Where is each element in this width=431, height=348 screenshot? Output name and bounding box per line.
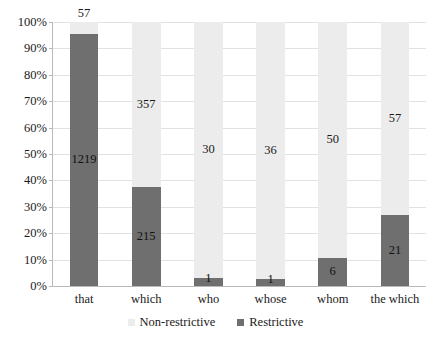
y-axis-label: 0% <box>30 280 47 293</box>
bars-layer: 121957that215357which130who136whose650wh… <box>53 22 426 286</box>
data-label-non-restrictive: 30 <box>194 144 223 157</box>
legend-label: Non-restrictive <box>140 316 216 329</box>
x-axis-label: who <box>198 293 220 306</box>
bar-group[interactable]: 650whom <box>302 22 364 286</box>
data-label-non-restrictive: 36 <box>256 144 285 157</box>
stacked-bar[interactable]: 215357 <box>132 22 161 286</box>
data-label-restrictive: 6 <box>318 266 347 279</box>
y-axis-label: 30% <box>24 201 47 214</box>
stacked-bar[interactable]: 130 <box>194 22 223 286</box>
x-axis-label: whom <box>317 293 348 306</box>
x-axis-label: that <box>75 293 94 306</box>
data-label-restrictive: 1 <box>256 274 285 287</box>
bar-segment-non-restrictive[interactable] <box>70 22 99 34</box>
data-label-restrictive: 215 <box>132 230 161 243</box>
y-axis-label: 80% <box>24 69 47 82</box>
y-axis-label: 90% <box>24 42 47 55</box>
data-label-restrictive: 21 <box>381 244 410 257</box>
bar-group[interactable]: 215357which <box>115 22 177 286</box>
bar-group[interactable]: 2157the which <box>364 22 426 286</box>
chart-legend: Non-restrictiveRestrictive <box>0 316 431 329</box>
y-axis-label: 40% <box>24 174 47 187</box>
bar-group[interactable]: 130who <box>177 22 239 286</box>
stacked-bar[interactable]: 136 <box>256 22 285 286</box>
legend-swatch-icon <box>128 319 135 326</box>
plot-area: 0%10%20%30%40%50%60%70%80%90%100% 121957… <box>52 22 426 287</box>
legend-label: Restrictive <box>249 316 303 329</box>
legend-item-restrictive[interactable]: Restrictive <box>237 316 303 329</box>
x-axis-label: which <box>131 293 162 306</box>
data-label-non-restrictive: 57 <box>70 7 99 20</box>
legend-swatch-icon <box>237 319 244 326</box>
x-axis-label: whose <box>255 293 287 306</box>
y-axis-label: 100% <box>18 16 47 29</box>
bar-group[interactable]: 121957that <box>53 22 115 286</box>
bar-group[interactable]: 136whose <box>240 22 302 286</box>
y-axis-label: 50% <box>24 148 47 161</box>
data-label-non-restrictive: 57 <box>381 112 410 125</box>
y-axis-label: 70% <box>24 95 47 108</box>
data-label-non-restrictive: 50 <box>318 134 347 147</box>
data-label-restrictive: 1219 <box>70 154 99 167</box>
stacked-bar[interactable]: 2157 <box>381 22 410 286</box>
stacked-bar-chart: 0%10%20%30%40%50%60%70%80%90%100% 121957… <box>0 0 431 348</box>
x-axis-label: the which <box>370 293 419 306</box>
y-axis-label: 20% <box>24 227 47 240</box>
y-axis-label: 60% <box>24 121 47 134</box>
y-axis-label: 10% <box>24 253 47 266</box>
legend-item-non-restrictive[interactable]: Non-restrictive <box>128 316 216 329</box>
data-label-restrictive: 1 <box>194 272 223 285</box>
stacked-bar[interactable]: 650 <box>318 22 347 286</box>
data-label-non-restrictive: 357 <box>132 98 161 111</box>
stacked-bar[interactable]: 121957 <box>70 22 99 286</box>
y-axis-tick <box>49 286 53 287</box>
